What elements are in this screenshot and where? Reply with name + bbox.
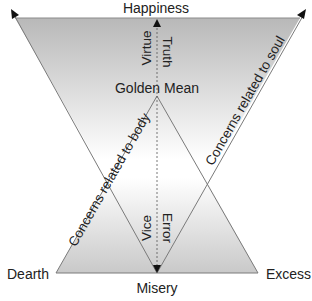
golden-mean-label: Golden Mean [115,80,199,96]
happiness-label: Happiness [123,0,189,16]
truth-label: Truth [160,36,175,67]
vice-label: Vice [139,215,154,241]
misery-label: Misery [136,280,177,296]
excess-label: Excess [266,266,311,282]
virtue-label: Virtue [139,30,154,65]
dearth-label: Dearth [7,266,49,282]
golden-mean-diagram: Happiness Misery Dearth Excess Golden Me… [0,0,312,301]
error-label: Error [160,213,175,244]
